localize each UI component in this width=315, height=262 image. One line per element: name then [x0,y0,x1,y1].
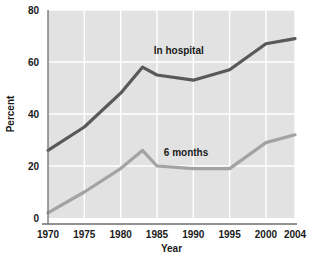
series-label-in-hospital: In hospital [154,45,204,56]
y-tick-label-60: 60 [28,57,40,68]
y-tick-label-20: 20 [28,161,40,172]
series-label-6-months: 6 months [164,147,209,158]
y-tick-label-0: 0 [33,213,39,224]
x-tick-label-1995: 1995 [218,229,241,240]
y-axis-title: Percent [5,95,16,132]
x-tick-label-1990: 1990 [182,229,205,240]
y-axis-tick-labels: 020406080 [28,5,40,224]
x-tick-label-1975: 1975 [73,229,96,240]
chart-canvas: 020406080 197019751980198519901995200020… [0,0,315,262]
y-tick-label-40: 40 [28,109,40,120]
y-tick-label-80: 80 [28,5,40,16]
x-axis-title: Year [161,243,182,254]
x-tick-label-2004: 2004 [284,229,307,240]
line-chart: 020406080 197019751980198519901995200020… [0,0,315,262]
x-tick-label-1980: 1980 [110,229,133,240]
x-tick-label-1985: 1985 [146,229,169,240]
x-axis-tick-labels: 19701975198019851990199520002004 [37,229,307,240]
x-tick-label-2000: 2000 [255,229,278,240]
x-tick-label-1970: 1970 [37,229,60,240]
